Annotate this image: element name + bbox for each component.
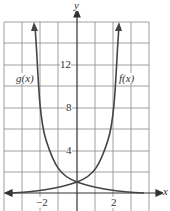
y-tick-12: 12 <box>60 59 71 70</box>
g-label: g(x) <box>16 73 34 84</box>
f-curve <box>10 27 119 193</box>
f-label: f(x) <box>119 73 134 84</box>
g-arrow <box>31 22 38 31</box>
y-tick-8: 8 <box>66 102 72 113</box>
y-tick-4: 4 <box>66 145 72 156</box>
x-tick-2: 2 <box>111 197 117 208</box>
x-axis-arrow-right <box>156 190 163 196</box>
g-curve <box>35 27 144 193</box>
y-axis-label: y <box>74 0 79 11</box>
f-arrow <box>115 22 122 31</box>
y-axis-arrow <box>74 10 80 17</box>
x-axis-label: x <box>163 186 168 197</box>
graph <box>0 0 170 211</box>
x-tick-neg2: −2 <box>36 197 48 208</box>
